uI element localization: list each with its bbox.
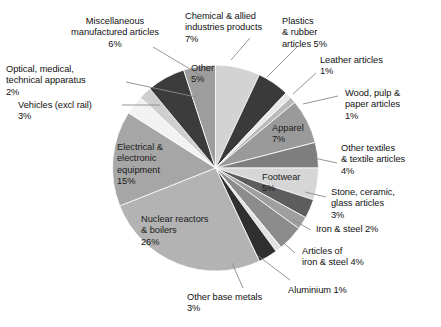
slice-label-plastics: Plastics & rubber articles 5%: [282, 16, 346, 50]
slice-label-other-base-metals: Other base metals 3%: [187, 292, 299, 315]
slice-label-aluminium: Aluminium 1%: [288, 285, 398, 296]
slice-label-electrical: Electrical & electronic equipment 15%: [117, 142, 197, 188]
pie-chart: Miscellaneous manufactured articles 6% O…: [0, 0, 441, 327]
leader-line-plastics: [267, 47, 297, 77]
slice-label-articles-iron-steel: Articles of iron & steel 4%: [302, 246, 434, 269]
leader-line-leather: [293, 73, 316, 94]
slice-label-leather: Leather articles 1%: [320, 55, 426, 78]
slice-label-stone: Stone, ceramic, glass articles 3%: [331, 187, 433, 221]
slice-label-apparel: Apparel 7%: [272, 123, 328, 146]
slice-label-wood: Wood, pulp & paper articles 1%: [345, 88, 437, 122]
slice-label-optical: Optical, medical, technical apparatus 2%: [6, 64, 130, 98]
slice-label-nuclear: Nuclear reactors & boilers 26%: [141, 214, 237, 248]
slice-label-iron-steel: Iron & steel 2%: [316, 224, 432, 235]
slice-label-vehicles: Vehicles (excl rail) 3%: [18, 100, 128, 123]
leader-line-aluminium: [257, 255, 290, 280]
slice-label-other: Other 5%: [191, 63, 235, 86]
slice-label-other-textiles: Other textiles & textile articles 4%: [341, 143, 439, 177]
slice-label-miscellaneous: Miscellaneous manufactured articles 6%: [52, 16, 178, 50]
leader-line-wood: [303, 96, 338, 104]
slice-label-footwear: Footwear 5%: [262, 172, 322, 195]
slice-label-chemical: Chemical & allied industries products 7%: [185, 11, 281, 45]
